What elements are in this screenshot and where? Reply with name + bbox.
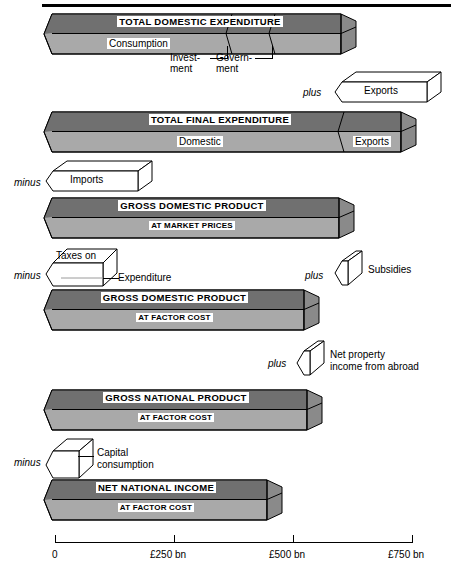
axis-label-250: £250 bn [150, 549, 186, 560]
operator-minus-taxes: minus [14, 270, 41, 281]
segment-label-exports: Exports [353, 136, 391, 147]
callout-government: Govern-ment [216, 52, 252, 74]
operator-minus-capital-consumption: minus [14, 457, 41, 468]
axis-tick-250 [174, 535, 175, 543]
bar-total-domestic-expenditure[interactable]: TOTAL DOMESTIC EXPENDITURE Consumption [43, 14, 357, 54]
axis-tick-500 [293, 535, 294, 543]
box-imports-label: Imports [70, 174, 103, 185]
operator-plus-net-property-income: plus [268, 358, 286, 369]
axis-label-500: £500 bn [269, 549, 305, 560]
axis-label-750: £750 bn [388, 549, 424, 560]
top-rule [42, 4, 451, 7]
diagram-canvas: TOTAL DOMESTIC EXPENDITURE Consumption I… [0, 0, 451, 565]
bar-title: GROSS NATIONAL PRODUCT [29, 392, 323, 403]
box-taxes-label: Taxes on [56, 250, 96, 261]
bar-gross-domestic-product-factor-cost[interactable]: GROSS DOMESTIC PRODUCT AT FACTOR COST [43, 290, 320, 330]
axis-line [55, 542, 413, 543]
leader-government-h [255, 58, 273, 59]
bar-subtitle: AT MARKET PRICES [29, 221, 355, 230]
leader-taxes-expenditure [103, 278, 119, 279]
bar-subtitle: AT FACTOR COST [29, 503, 283, 512]
box-net-property-income-label: Net propertyincome from abroad [330, 349, 419, 373]
box-capital-consumption-shape [45, 438, 95, 481]
segment-label-domestic: Domestic [177, 136, 223, 147]
bar-title: TOTAL DOMESTIC EXPENDITURE [43, 16, 357, 27]
bar-net-national-income-factor-cost[interactable]: NET NATIONAL INCOME AT FACTOR COST [43, 480, 283, 520]
box-net-property-income-shape [296, 340, 330, 379]
box-capital-consumption-label: Capitalconsumption [97, 447, 154, 471]
leader-capital-consumption [78, 456, 94, 457]
bar-gross-national-product-factor-cost[interactable]: GROSS NATIONAL PRODUCT AT FACTOR COST [43, 390, 323, 430]
box-exports[interactable]: Exports [334, 71, 442, 103]
box-capital-consumption[interactable]: Capitalconsumption [45, 438, 95, 480]
bar-subtitle: AT FACTOR COST [29, 313, 320, 322]
axis-tick-0 [55, 535, 56, 543]
bar-gross-domestic-product-market-prices[interactable]: GROSS DOMESTIC PRODUCT AT MARKET PRICES [43, 198, 355, 238]
axis-tick-750 [412, 535, 413, 543]
bar-title: TOTAL FINAL EXPENDITURE [23, 114, 417, 125]
box-subsidies[interactable]: Subsidies [334, 250, 368, 288]
operator-plus-exports: plus [303, 87, 321, 98]
callout-investment: Invest-ment [170, 52, 200, 74]
segment-label-consumption: Consumption [107, 38, 170, 49]
bar-subtitle: AT FACTOR COST [29, 413, 323, 422]
bar-title: NET NATIONAL INCOME [29, 482, 283, 493]
bar-total-final-expenditure[interactable]: TOTAL FINAL EXPENDITURE Domestic Exports [43, 112, 417, 152]
bar-title: GROSS DOMESTIC PRODUCT [29, 200, 355, 211]
bar-title: GROSS DOMESTIC PRODUCT [29, 292, 320, 303]
callout-expenditure: Expenditure [118, 272, 171, 283]
box-subsidies-label: Subsidies [368, 264, 411, 275]
box-net-property-income[interactable]: Net propertyincome from abroad [296, 340, 330, 378]
box-imports[interactable]: Imports [45, 160, 153, 193]
operator-plus-subsidies: plus [305, 270, 323, 281]
box-exports-label: Exports [364, 85, 398, 96]
box-subsidies-shape [334, 250, 368, 289]
operator-minus-imports: minus [14, 177, 41, 188]
axis-label-0: 0 [52, 549, 58, 560]
